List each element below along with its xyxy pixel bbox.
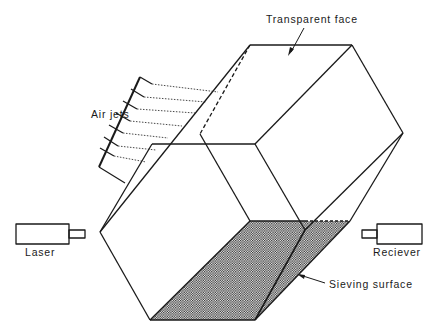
sieving-surface-label: Sieving surface (329, 278, 413, 290)
transparent-face-arrow (288, 28, 304, 56)
receiver-label: Reciever (373, 246, 421, 258)
sieving-surface (150, 221, 350, 320)
air-jets (99, 77, 218, 183)
receiver-device (362, 224, 422, 244)
sieving-surface-arrow (297, 274, 325, 283)
transparent-face-label: Transparent face (266, 13, 358, 25)
laser-label: Laser (25, 246, 55, 258)
laser-device (16, 224, 85, 244)
air-jets-label: Air jets (91, 108, 130, 120)
